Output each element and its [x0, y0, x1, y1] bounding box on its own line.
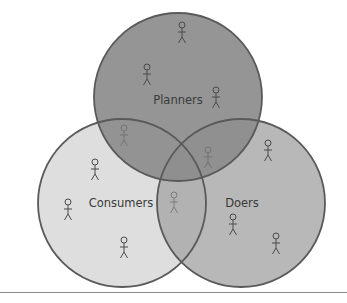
- set-label-planners: Planners: [153, 93, 203, 107]
- set-label-consumers: Consumers: [89, 196, 154, 210]
- set-label-doers: Doers: [225, 196, 259, 210]
- bottom-divider: [0, 292, 347, 293]
- venn-diagram: Planners Consumers Doers: [0, 0, 347, 303]
